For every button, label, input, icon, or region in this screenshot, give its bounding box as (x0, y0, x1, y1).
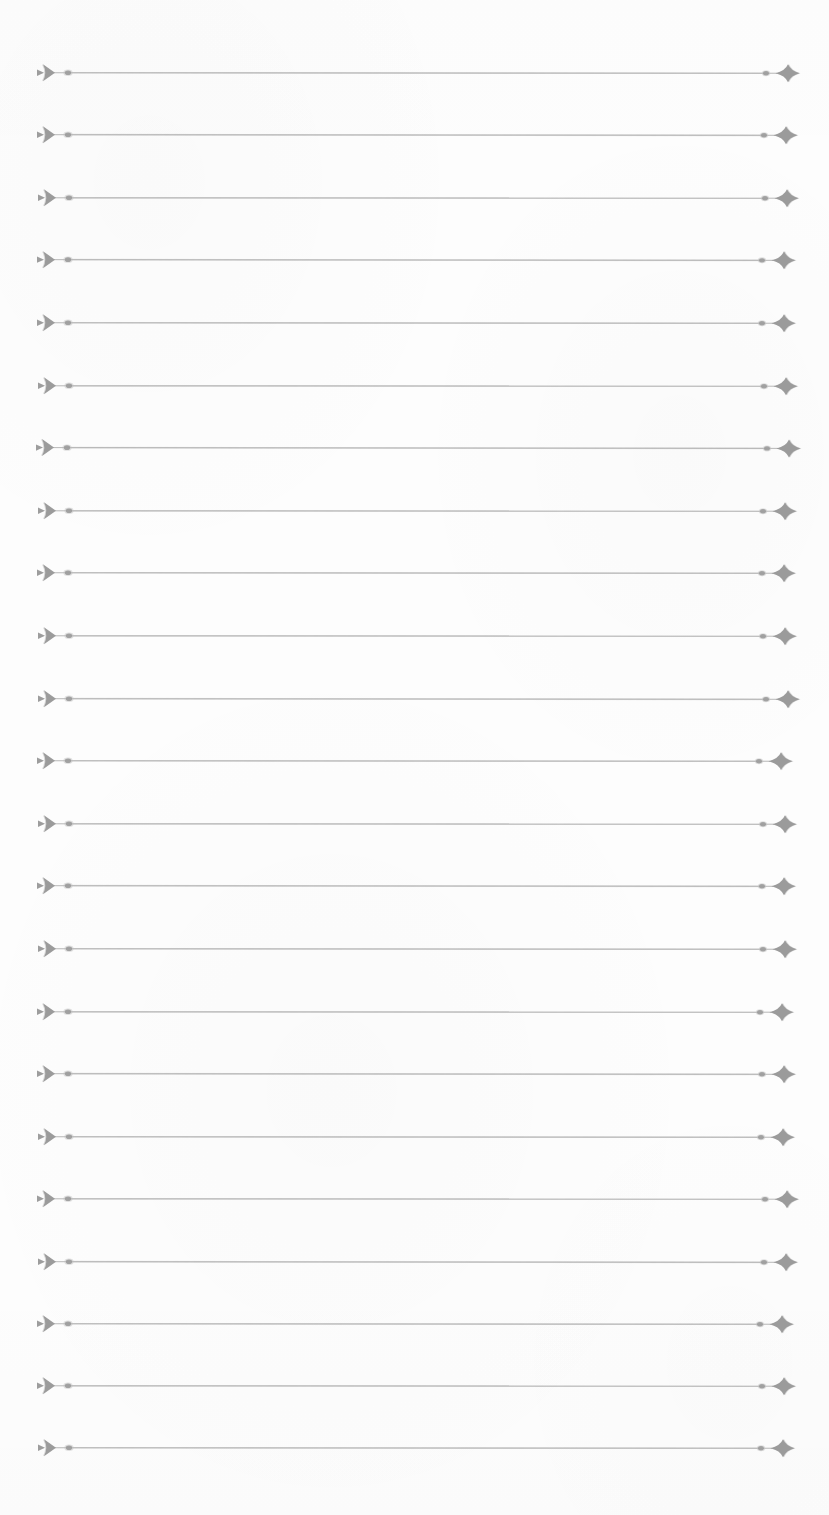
right-star-icon (772, 251, 796, 269)
ruled-line-row (0, 1249, 829, 1275)
left-tail-spike-icon (36, 444, 43, 450)
ruled-line-row (0, 1124, 829, 1150)
left-dot-icon (66, 696, 72, 701)
right-dot-icon (762, 196, 768, 200)
right-dot-icon (759, 571, 765, 575)
right-star-icon (773, 502, 797, 520)
left-dot-icon (66, 822, 72, 827)
left-tail-spike-icon (38, 633, 45, 639)
left-dot-icon (66, 384, 72, 389)
left-dot-icon (66, 1134, 72, 1139)
left-tail-spike-icon (37, 320, 44, 326)
right-star-icon (770, 1315, 794, 1333)
left-tail-spike-icon (38, 1259, 45, 1265)
left-tail-spike-icon (37, 570, 44, 576)
right-dot-icon (757, 1322, 763, 1326)
left-dot-icon (64, 445, 70, 450)
right-star-icon (771, 1439, 795, 1457)
right-star-icon (772, 1065, 796, 1083)
right-dot-icon (760, 947, 766, 951)
ruled-line-row (0, 373, 829, 399)
left-tail-spike-icon (38, 1445, 45, 1451)
right-star-icon (775, 189, 799, 207)
right-dot-icon (761, 384, 767, 388)
right-star-icon (774, 126, 798, 144)
right-star-icon (776, 690, 800, 708)
left-dot-icon (65, 257, 71, 262)
right-star-icon (777, 439, 801, 457)
left-dot-icon (65, 1384, 71, 1389)
left-tail-spike-icon (38, 696, 45, 702)
ruled-line-row (0, 999, 829, 1025)
left-dot-icon (66, 1259, 72, 1264)
right-dot-icon (759, 258, 765, 262)
left-tail-spike-icon (38, 946, 45, 952)
ruled-line-row (0, 60, 829, 86)
left-tail-spike-icon (37, 1196, 44, 1202)
right-dot-icon (760, 509, 766, 513)
right-dot-icon (758, 1135, 764, 1139)
left-dot-icon (65, 758, 71, 763)
ruled-line-row (0, 873, 829, 899)
ruled-line-row (0, 748, 829, 774)
right-star-icon (773, 815, 797, 833)
left-tail-spike-icon (37, 1071, 44, 1077)
left-tail-spike-icon (38, 821, 45, 827)
left-dot-icon (65, 70, 71, 75)
right-dot-icon (761, 133, 767, 137)
left-tail-spike-icon (38, 1134, 45, 1140)
left-dot-icon (65, 1321, 71, 1326)
left-dot-icon (65, 570, 71, 575)
left-dot-icon (66, 196, 72, 201)
ruled-line-row (0, 1435, 829, 1461)
ruled-line-row (0, 1311, 829, 1337)
ruled-line-row (0, 1373, 829, 1399)
ruled-sheet-page (0, 0, 829, 1515)
left-dot-icon (65, 883, 71, 888)
right-dot-icon (760, 822, 766, 826)
right-star-icon (772, 877, 796, 895)
rule-stroke (68, 135, 764, 136)
left-tail-spike-icon (37, 1009, 44, 1015)
right-star-icon (771, 1128, 795, 1146)
right-dot-icon (762, 1197, 768, 1201)
right-star-icon (773, 940, 797, 958)
right-dot-icon (759, 1072, 765, 1076)
right-dot-icon (756, 759, 762, 763)
right-star-icon (772, 1377, 796, 1395)
right-dot-icon (764, 446, 770, 450)
rule-stroke (69, 1262, 764, 1263)
left-tail-spike-icon (37, 70, 44, 76)
right-star-icon (776, 64, 800, 82)
rule-stroke (68, 886, 762, 887)
left-tail-spike-icon (37, 1321, 44, 1327)
ruled-line-row (0, 1186, 829, 1212)
ruled-line-row (0, 247, 829, 273)
right-star-icon (775, 1190, 799, 1208)
ruled-line-row (0, 435, 829, 461)
left-tail-spike-icon (38, 508, 45, 514)
left-dot-icon (66, 634, 72, 639)
left-dot-icon (65, 1010, 71, 1015)
rule-stroke (69, 699, 766, 700)
right-dot-icon (761, 1260, 767, 1264)
ruled-line-row (0, 310, 829, 336)
left-tail-spike-icon (37, 132, 44, 138)
left-dot-icon (65, 132, 71, 137)
ruled-line-row (0, 560, 829, 586)
left-dot-icon (66, 509, 72, 514)
ruled-line-row (0, 936, 829, 962)
right-dot-icon (759, 884, 765, 888)
left-dot-icon (65, 320, 71, 325)
right-dot-icon (763, 697, 769, 701)
left-tail-spike-icon (37, 256, 44, 262)
ruled-line-row (0, 185, 829, 211)
ruled-line-row (0, 498, 829, 524)
right-star-icon (772, 564, 796, 582)
right-dot-icon (759, 321, 765, 325)
left-tail-spike-icon (37, 883, 44, 889)
rule-stroke (68, 1074, 762, 1075)
right-star-icon (774, 377, 798, 395)
right-dot-icon (759, 1384, 765, 1388)
left-dot-icon (66, 946, 72, 951)
